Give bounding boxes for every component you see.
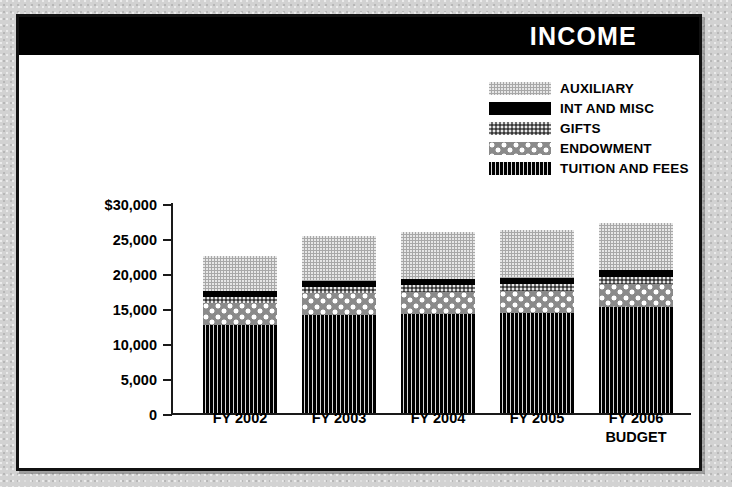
y-axis-tick xyxy=(163,274,172,276)
legend-swatch-gifts-icon xyxy=(489,122,551,135)
bar-fy-2006-budget xyxy=(599,223,673,413)
legend-swatch-auxiliary-icon xyxy=(489,82,551,95)
y-axis-tick xyxy=(163,239,172,241)
bar-fy-2002 xyxy=(203,256,277,413)
y-axis-label: 15,000 xyxy=(113,303,157,318)
bar-fy-2005 xyxy=(500,230,574,413)
title-bar: INCOME xyxy=(19,17,699,55)
chart-legend: AUXILIARYINT AND MISCGIFTSENDOWMENTTUITI… xyxy=(489,79,699,179)
bar-segment-tuition xyxy=(203,325,277,413)
y-axis-label: 10,000 xyxy=(113,338,157,353)
legend-swatch-int-icon xyxy=(489,102,551,115)
bar-segment-tuition xyxy=(500,313,574,413)
legend-label: GIFTS xyxy=(560,122,601,136)
legend-item-gifts: GIFTS xyxy=(489,119,699,138)
y-axis-label: 20,000 xyxy=(113,268,157,283)
legend-item-int: INT AND MISC xyxy=(489,99,699,118)
legend-swatch-tuition-icon xyxy=(489,162,551,175)
y-axis-tick xyxy=(163,344,172,346)
bar-segment-auxiliary xyxy=(401,232,475,280)
y-axis-label: 5,000 xyxy=(121,373,157,388)
bar-segment-gifts xyxy=(599,277,673,285)
bar-segment-gifts xyxy=(500,284,574,291)
bar-segment-auxiliary xyxy=(302,236,376,282)
bar-segment-auxiliary xyxy=(599,223,673,271)
y-axis-tick xyxy=(163,414,172,416)
legend-swatch-endowment-icon xyxy=(489,142,551,155)
x-axis-label: FY 2006BUDGET xyxy=(576,409,696,447)
bar-fy-2003 xyxy=(302,236,376,413)
legend-label: TUITION AND FEES xyxy=(560,162,689,176)
y-axis-tick xyxy=(163,204,172,206)
y-axis-label: 25,000 xyxy=(113,233,157,248)
page-background: INCOME AUXILIARYINT AND MISCGIFTSENDOWME… xyxy=(0,0,732,487)
bar-segment-endowment xyxy=(302,293,376,315)
bar-segment-auxiliary xyxy=(500,230,574,278)
x-axis-label-line2: BUDGET xyxy=(576,428,696,447)
x-axis-label-line1: FY 2006 xyxy=(576,409,696,428)
chart-frame: INCOME AUXILIARYINT AND MISCGIFTSENDOWME… xyxy=(16,14,702,471)
bar-segment-endowment xyxy=(401,292,475,314)
bar-segment-endowment xyxy=(500,291,574,313)
legend-label: ENDOWMENT xyxy=(560,142,652,156)
legend-label: INT AND MISC xyxy=(560,102,654,116)
legend-item-auxiliary: AUXILIARY xyxy=(489,79,699,98)
bar-segment-tuition xyxy=(401,314,475,413)
page-title: INCOME xyxy=(530,23,637,49)
y-axis-label: 0 xyxy=(149,408,157,423)
bar-segment-tuition xyxy=(599,307,673,413)
plot-area: 05,00010,00015,00020,00025,000$30,000 FY… xyxy=(171,203,691,415)
legend-label: AUXILIARY xyxy=(560,82,634,96)
bar-segment-tuition xyxy=(302,315,376,413)
y-axis-tick xyxy=(163,309,172,311)
bar-fy-2004 xyxy=(401,232,475,413)
legend-item-endowment: ENDOWMENT xyxy=(489,139,699,158)
bar-segment-endowment xyxy=(599,284,673,306)
bar-segment-auxiliary xyxy=(203,256,277,292)
bar-segment-gifts xyxy=(401,285,475,292)
y-axis-tick xyxy=(163,379,172,381)
y-axis-label: $30,000 xyxy=(105,198,157,213)
legend-item-tuition: TUITION AND FEES xyxy=(489,159,699,178)
bar-segment-endowment xyxy=(203,303,277,325)
